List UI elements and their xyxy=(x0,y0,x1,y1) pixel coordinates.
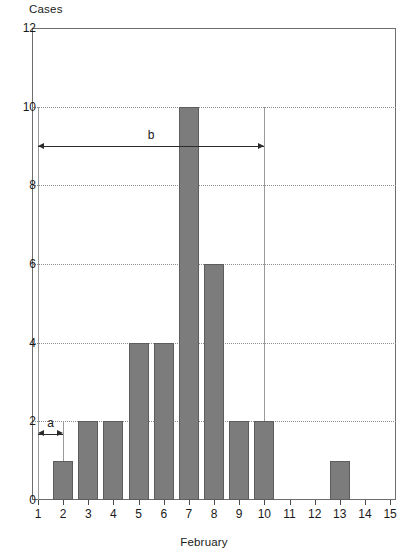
annotation-label-b: b xyxy=(141,129,161,141)
x-tick-label-4: 4 xyxy=(101,508,125,521)
y-tick-label-12: 12 xyxy=(2,22,36,34)
epidemic-curve-chart: Cases 024681012 123456789101112131415 ab… xyxy=(0,0,408,559)
annotation-b-arrowhead-right-icon xyxy=(258,143,264,149)
y-tick-label-0: 0 xyxy=(2,494,36,506)
x-tick-mark-9 xyxy=(239,500,240,505)
x-tick-label-14: 14 xyxy=(353,508,377,521)
x-tick-mark-11 xyxy=(290,500,291,505)
reference-line-day-1 xyxy=(38,107,39,500)
x-tick-label-1: 1 xyxy=(26,508,50,521)
bar-day-10 xyxy=(254,421,274,500)
gridline-y-8 xyxy=(32,185,396,186)
y-axis-title: Cases xyxy=(29,3,63,15)
x-tick-label-11: 11 xyxy=(278,508,302,521)
bar-day-6 xyxy=(154,343,174,500)
x-tick-label-6: 6 xyxy=(152,508,176,521)
x-axis-title: February xyxy=(0,536,408,548)
x-tick-label-7: 7 xyxy=(177,508,201,521)
x-tick-mark-4 xyxy=(113,500,114,505)
x-tick-mark-15 xyxy=(390,500,391,505)
bar-day-7 xyxy=(179,107,199,500)
x-tick-mark-5 xyxy=(139,500,140,505)
bar-day-9 xyxy=(229,421,249,500)
x-tick-mark-6 xyxy=(164,500,165,505)
annotation-b-arrowhead-left-icon xyxy=(38,143,44,149)
x-tick-label-2: 2 xyxy=(51,508,75,521)
y-tick-label-2: 2 xyxy=(2,415,36,427)
x-tick-mark-8 xyxy=(214,500,215,505)
annotation-label-a: a xyxy=(41,417,61,429)
x-tick-mark-1 xyxy=(38,500,39,505)
x-tick-label-5: 5 xyxy=(127,508,151,521)
x-tick-mark-2 xyxy=(63,500,64,505)
x-tick-label-12: 12 xyxy=(303,508,327,521)
annotation-a-arrowhead-left-icon xyxy=(38,430,44,436)
x-tick-label-3: 3 xyxy=(76,508,100,521)
x-tick-label-13: 13 xyxy=(328,508,352,521)
annotation-a-arrowhead-right-icon xyxy=(57,430,63,436)
gridline-y-10 xyxy=(32,107,396,108)
x-tick-mark-14 xyxy=(365,500,366,505)
bar-day-3 xyxy=(78,421,98,500)
annotation-b-line xyxy=(38,146,264,147)
bar-day-2 xyxy=(53,461,73,500)
y-tick-label-10: 10 xyxy=(2,101,36,113)
x-tick-mark-12 xyxy=(315,500,316,505)
y-tick-label-4: 4 xyxy=(2,337,36,349)
bar-day-13 xyxy=(330,461,350,500)
y-tick-label-6: 6 xyxy=(2,258,36,270)
x-tick-label-9: 9 xyxy=(227,508,251,521)
x-tick-mark-10 xyxy=(264,500,265,505)
x-tick-mark-3 xyxy=(88,500,89,505)
x-tick-label-8: 8 xyxy=(202,508,226,521)
bar-day-4 xyxy=(103,421,123,500)
x-tick-mark-13 xyxy=(340,500,341,505)
bar-day-5 xyxy=(129,343,149,500)
x-tick-label-10: 10 xyxy=(252,508,276,521)
y-tick-label-8: 8 xyxy=(2,179,36,191)
x-tick-mark-7 xyxy=(189,500,190,505)
bar-day-8 xyxy=(204,264,224,500)
x-tick-label-15: 15 xyxy=(378,508,402,521)
